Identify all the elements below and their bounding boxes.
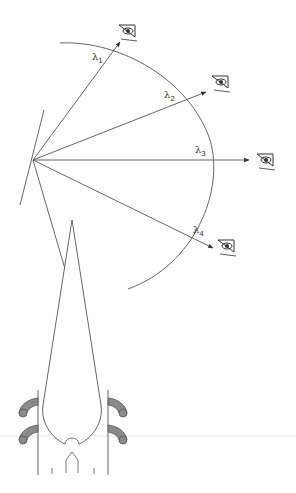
eye-icon	[212, 76, 230, 92]
eye-icon	[218, 240, 236, 256]
inner-figure	[66, 452, 78, 473]
observation-arc	[60, 43, 214, 289]
label-lambda-4: λ4	[193, 225, 204, 238]
ray-4	[33, 160, 213, 248]
label-lambda-3: λ3	[195, 145, 206, 158]
hooks-left	[19, 398, 38, 444]
diagram: λ1 λ2 λ3 λ4	[0, 0, 296, 493]
ray-2	[33, 92, 206, 160]
label-lambda-1: λ1	[92, 52, 103, 65]
diagram-canvas	[0, 0, 296, 493]
eye-icon	[119, 25, 137, 41]
lambda-subscript: 4	[199, 229, 203, 238]
light-cone	[43, 220, 102, 444]
lambda-subscript: 1	[98, 56, 102, 65]
hooks-right	[108, 398, 127, 444]
lambda-subscript: 3	[201, 149, 205, 158]
ray-1	[33, 42, 120, 160]
eye-icon	[257, 154, 275, 170]
label-lambda-2: λ2	[164, 90, 175, 103]
lambda-subscript: 2	[170, 94, 174, 103]
